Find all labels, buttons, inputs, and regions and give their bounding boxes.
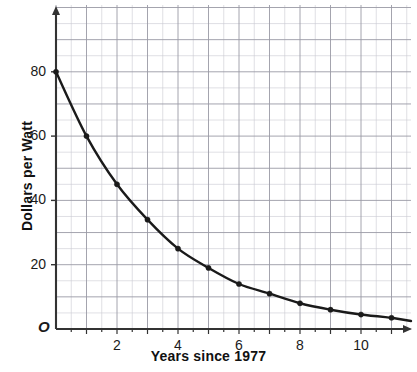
data-point [297,301,302,306]
chart-figure: 246810 20406080 O Years since 1977 Dolla… [0,0,417,372]
data-point [84,134,89,139]
origin-label: O [38,318,50,335]
data-point [175,246,180,251]
data-point [358,312,363,317]
data-point [389,315,394,320]
data-point [114,182,119,187]
data-point [53,69,58,74]
chart-plot-area [0,0,417,372]
y-axis-title: Dollars per Watt [19,76,35,276]
data-point [236,281,241,286]
data-point [328,307,333,312]
data-point [145,217,150,222]
data-point [267,291,272,296]
axis-tick-marks [51,72,392,334]
x-axis-title: Years since 1977 [0,348,417,364]
data-point [206,265,211,270]
data-curve [56,72,411,321]
